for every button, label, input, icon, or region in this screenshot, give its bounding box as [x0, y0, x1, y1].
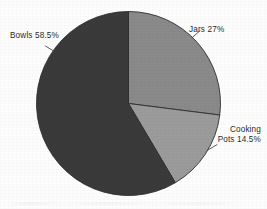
slice-label-bowls: Bowls 58.5%: [10, 31, 59, 41]
slice-label-cooking-pots-line1: Cooking: [230, 125, 261, 134]
leader-line-bowls: [46, 46, 54, 51]
slice-label-cooking-pots: Cooking Pots 14.5%: [199, 125, 261, 144]
slice-label-cooking-pots-line2: Pots 14.5%: [218, 135, 261, 144]
pie-slices: [37, 12, 221, 196]
pie-chart-figure: Bowls 58.5% Jars 27% Cooking Pots 14.5%: [0, 0, 267, 209]
slice-label-jars: Jars 27%: [189, 25, 224, 35]
